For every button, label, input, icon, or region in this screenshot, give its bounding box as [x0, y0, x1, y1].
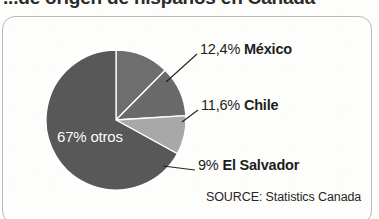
- figure-title-strip: ...de origen de hispanos en Canadá: [0, 0, 379, 15]
- source-attribution: SOURCE: Statistics Canada: [206, 190, 361, 204]
- callout-chile-percent: 11,6%: [201, 97, 240, 113]
- pie-chart: [44, 48, 188, 192]
- callout-mexico-percent: 12,4%: [200, 41, 240, 57]
- page-title: ...de origen de hispanos en Canadá: [3, 0, 315, 9]
- pie-chart-svg: [44, 48, 188, 192]
- callout-el-salvador-name: El Salvador: [222, 157, 299, 173]
- callout-mexico: 12,4% México: [200, 41, 292, 57]
- callout-mexico-name: México: [244, 41, 292, 57]
- callout-el-salvador: 9% El Salvador: [198, 157, 299, 173]
- callout-chile-name: Chile: [244, 97, 278, 113]
- slice-label-otros: 67% otros: [57, 128, 123, 145]
- callout-chile: 11,6% Chile: [201, 97, 278, 113]
- callout-el-salvador-percent: 9%: [198, 157, 219, 173]
